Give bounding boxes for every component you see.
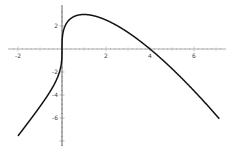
x-axis-ticks: -2246 <box>14 47 221 60</box>
x-tick-label: 4 <box>148 52 152 59</box>
x-tick-label: 6 <box>192 52 196 59</box>
y-tick-label: -4 <box>52 91 58 98</box>
y-tick-label: -2 <box>52 68 58 75</box>
x-axis: -2246 <box>8 47 226 60</box>
function-plot: -2246 2-2-4-6 <box>0 0 234 153</box>
y-tick-label: -6 <box>52 114 58 121</box>
function-curve <box>18 15 219 136</box>
y-tick-label: 2 <box>54 22 58 29</box>
x-tick-label: -2 <box>15 52 21 59</box>
x-tick-label: 2 <box>104 52 108 59</box>
